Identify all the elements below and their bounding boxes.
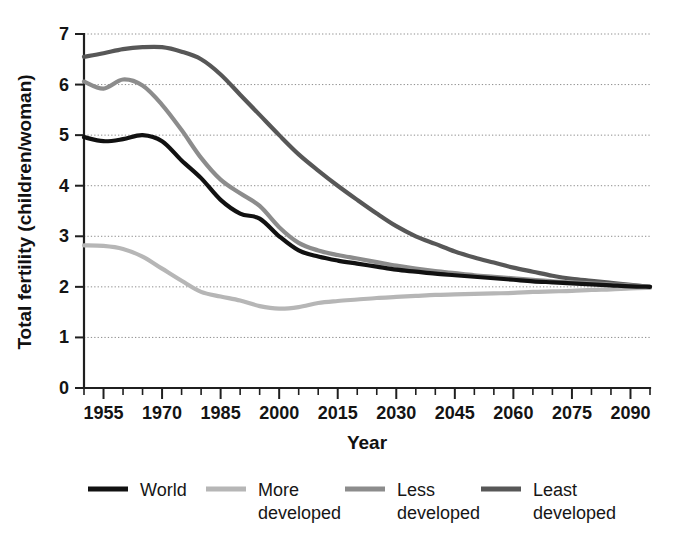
- legend-label-more-line2: developed: [258, 503, 341, 523]
- y-tick-label-2: 2: [59, 277, 69, 297]
- x-axis: 1955197019852000201520302045206020752090: [83, 388, 650, 423]
- y-tick-label-3: 3: [59, 226, 69, 246]
- y-tick-label-7: 7: [59, 24, 69, 44]
- legend-label-world: World: [140, 480, 187, 500]
- x-tick-label-2060: 2060: [493, 403, 533, 423]
- x-tick-label-2030: 2030: [376, 403, 416, 423]
- legend-label-more: More: [258, 480, 299, 500]
- total-fertility-line-chart: 01234567 1955197019852000201520302045206…: [0, 0, 684, 548]
- x-tick-label-2000: 2000: [259, 403, 299, 423]
- x-tick-label-2090: 2090: [610, 403, 650, 423]
- x-tick-label-1985: 1985: [201, 403, 241, 423]
- y-axis-title: Total fertility (children/woman): [14, 74, 35, 349]
- y-tick-label-0: 0: [59, 378, 69, 398]
- legend-label-least-line2: developed: [533, 503, 616, 523]
- y-tick-label-1: 1: [59, 327, 69, 347]
- y-tick-label-5: 5: [59, 125, 69, 145]
- legend-label-less-line2: developed: [397, 503, 480, 523]
- x-tick-label-2075: 2075: [552, 403, 592, 423]
- x-tick-label-2015: 2015: [318, 403, 358, 423]
- x-axis-title: Year: [347, 432, 388, 453]
- x-tick-label-1970: 1970: [142, 403, 182, 423]
- x-tick-label-2045: 2045: [435, 403, 475, 423]
- legend-label-least: Least: [533, 480, 577, 500]
- series-line-less-developed: [84, 79, 650, 286]
- y-tick-label-6: 6: [59, 75, 69, 95]
- y-axis: 01234567: [59, 24, 84, 398]
- series-lines: [84, 47, 650, 309]
- legend: WorldMoredevelopedLessdevelopedLeastdeve…: [88, 480, 616, 523]
- series-line-world: [84, 135, 650, 287]
- fertility-chart-figure: 01234567 1955197019852000201520302045206…: [0, 0, 684, 548]
- series-line-least-developed: [84, 47, 650, 287]
- y-tick-label-4: 4: [59, 176, 69, 196]
- legend-label-less: Less: [397, 480, 435, 500]
- x-tick-label-1955: 1955: [83, 403, 123, 423]
